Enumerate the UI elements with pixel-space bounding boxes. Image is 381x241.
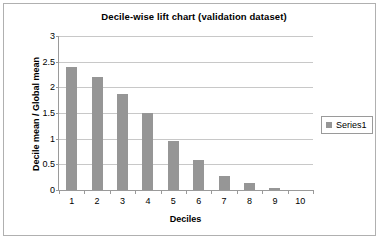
y-tick-mark: [56, 62, 59, 63]
y-tick-label: 1: [50, 134, 55, 144]
y-tick-label: 3: [50, 31, 55, 41]
x-tick-mark: [262, 190, 263, 194]
chart-frame: Decile-wise lift chart (validation datas…: [3, 3, 376, 236]
bar-decile-7[interactable]: [219, 176, 230, 190]
x-tick-label-10: 10: [295, 196, 305, 206]
x-tick-mark: [84, 190, 85, 194]
bar-decile-8[interactable]: [244, 183, 255, 190]
bar-decile-4[interactable]: [142, 113, 153, 190]
x-tick-label-8: 8: [247, 196, 252, 206]
bar-decile-3[interactable]: [117, 94, 128, 190]
y-gridline: [59, 62, 313, 63]
x-tick-label-4: 4: [145, 196, 150, 206]
y-tick-mark: [56, 87, 59, 88]
x-axis-title: Deciles: [58, 214, 313, 224]
bar-decile-6[interactable]: [193, 160, 204, 190]
x-tick-label-2: 2: [95, 196, 100, 206]
bar-decile-1[interactable]: [66, 67, 77, 190]
bar-decile-9[interactable]: [269, 188, 280, 190]
x-tick-mark: [288, 190, 289, 194]
y-gridline: [59, 36, 313, 37]
x-tick-mark: [237, 190, 238, 194]
x-tick-mark: [59, 190, 60, 194]
y-tick-label: 1.5: [42, 108, 55, 118]
x-tick-mark: [110, 190, 111, 194]
y-tick-label: 0: [50, 185, 55, 195]
y-tick-mark: [56, 164, 59, 165]
x-tick-mark: [135, 190, 136, 194]
y-tick-mark: [56, 139, 59, 140]
x-tick-label-1: 1: [69, 196, 74, 206]
x-tick-mark: [313, 190, 314, 194]
chart-legend[interactable]: Series1: [321, 116, 373, 134]
plot-area: 00.511.522.5312345678910: [58, 36, 313, 191]
x-tick-mark: [186, 190, 187, 194]
y-tick-mark: [56, 36, 59, 37]
x-tick-label-7: 7: [222, 196, 227, 206]
bar-decile-2[interactable]: [92, 77, 103, 190]
y-tick-label: 0.5: [42, 159, 55, 169]
x-tick-label-5: 5: [171, 196, 176, 206]
legend-label-series1: Series1: [336, 120, 367, 130]
y-tick-mark: [56, 113, 59, 114]
chart-title: Decile-wise lift chart (validation datas…: [44, 11, 344, 22]
x-tick-mark: [211, 190, 212, 194]
bar-decile-5[interactable]: [168, 141, 179, 190]
legend-swatch-series1-icon: [326, 122, 332, 128]
y-tick-label: 2.5: [42, 57, 55, 67]
x-tick-mark: [161, 190, 162, 194]
y-axis-title: Decile mean / Global mean: [31, 34, 41, 194]
x-tick-label-3: 3: [120, 196, 125, 206]
x-tick-label-9: 9: [272, 196, 277, 206]
x-tick-label-6: 6: [196, 196, 201, 206]
y-tick-label: 2: [50, 82, 55, 92]
